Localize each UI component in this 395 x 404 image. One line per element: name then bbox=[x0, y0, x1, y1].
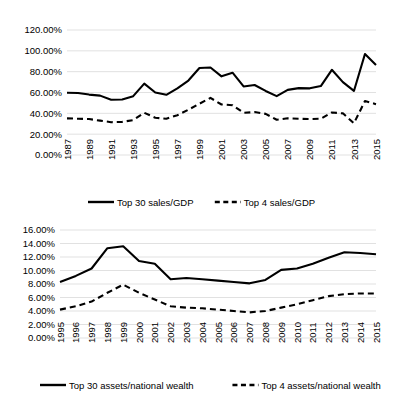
legend-label: Top 30 sales/GDP bbox=[117, 197, 194, 208]
x-axis-tick-label: 1995 bbox=[55, 322, 66, 343]
x-axis-tick-label: 2015 bbox=[371, 322, 382, 343]
x-axis-tick-label: 2005 bbox=[213, 322, 224, 343]
x-axis-tick-label: 2001 bbox=[149, 322, 160, 343]
y-axis-tick-label: 8.00% bbox=[28, 278, 55, 289]
x-axis-tick-label: 2004 bbox=[197, 322, 208, 343]
y-axis-tick-label: 0.00% bbox=[35, 149, 62, 160]
y-axis-tick-label: 16.00% bbox=[23, 224, 56, 235]
y-axis-tick-label: 40.00% bbox=[30, 108, 63, 119]
y-axis-tick-label: 120.00% bbox=[24, 24, 62, 35]
x-axis-tick-label: 1987 bbox=[62, 139, 73, 160]
plot-gridlines-bottom bbox=[60, 230, 376, 338]
x-axis-tick-label: 1997 bbox=[172, 139, 183, 160]
x-axis-tick-label: 2007 bbox=[244, 322, 255, 343]
series-line-dashed bbox=[60, 285, 376, 313]
x-axis-tick-label: 2015 bbox=[371, 139, 382, 160]
plot-series-top bbox=[67, 54, 376, 123]
x-axis-tick-label: 2012 bbox=[323, 322, 334, 343]
x-axis-tick-label: 2011 bbox=[307, 323, 318, 343]
x-axis-tick-label: 2014 bbox=[355, 322, 366, 343]
y-axis-tick-label: 4.00% bbox=[28, 305, 55, 316]
y-axis-tick-label: 20.00% bbox=[30, 129, 63, 140]
y-axis-tick-label: 14.00% bbox=[23, 238, 56, 249]
plot-gridlines-top bbox=[67, 30, 376, 155]
x-axis-tick-label: 1997 bbox=[86, 322, 97, 343]
plot-ylabels-bottom: 16.00%14.00%12.00%10.00%8.00%6.00%4.00%2… bbox=[23, 224, 56, 343]
series-line-solid bbox=[67, 54, 376, 100]
y-axis-tick-label: 0.00% bbox=[28, 332, 55, 343]
x-axis-tick-label: 2005 bbox=[260, 139, 271, 160]
x-axis-tick-label: 2001 bbox=[216, 139, 227, 160]
x-axis-tick-label: 2009 bbox=[276, 322, 287, 343]
plot-ylabels-top: 120.00%100.00%80.00%60.00%40.00%20.00%0.… bbox=[24, 24, 62, 160]
legend-label: Top 4 sales/GDP bbox=[244, 197, 315, 208]
series-line-dashed bbox=[67, 98, 376, 123]
legend-label: Top 4 assets/national wealth bbox=[261, 380, 380, 391]
x-axis-tick-label: 2003 bbox=[238, 139, 249, 160]
x-axis-tick-label: 2002 bbox=[165, 322, 176, 343]
y-axis-tick-label: 10.00% bbox=[23, 265, 56, 276]
x-axis-tick-label: 2006 bbox=[228, 322, 239, 343]
plot-xlabels-top: 1987198919911993199519971999200120032005… bbox=[62, 139, 382, 160]
plot-series-bottom bbox=[60, 246, 376, 312]
x-axis-tick-label: 2003 bbox=[181, 322, 192, 343]
x-axis-tick-label: 2013 bbox=[349, 139, 360, 160]
x-axis-tick-label: 1993 bbox=[128, 139, 139, 160]
y-axis-tick-label: 80.00% bbox=[30, 66, 63, 77]
chart-assets-national-wealth-svg: 16.00%14.00%12.00%10.00%8.00%6.00%4.00%2… bbox=[0, 212, 395, 404]
y-axis-tick-label: 6.00% bbox=[28, 292, 55, 303]
x-axis-tick-label: 1998 bbox=[102, 322, 113, 343]
x-axis-tick-label: 1999 bbox=[194, 139, 205, 160]
x-axis-tick-label: 2013 bbox=[339, 322, 350, 343]
x-axis-tick-label: 2009 bbox=[304, 139, 315, 160]
x-axis-tick-label: 2007 bbox=[282, 139, 293, 160]
y-axis-tick-label: 2.00% bbox=[28, 319, 55, 330]
plot-xlabels-bottom: 1995199619971998199920002001200220032004… bbox=[55, 322, 382, 343]
y-axis-tick-label: 100.00% bbox=[24, 45, 62, 56]
x-axis-tick-label: 2010 bbox=[292, 322, 303, 343]
plot-legend-top: Top 30 sales/GDPTop 4 sales/GDP bbox=[88, 197, 315, 208]
x-axis-tick-label: 2008 bbox=[260, 322, 271, 343]
x-axis-tick-label: 1995 bbox=[150, 139, 161, 160]
chart-assets-national-wealth: 16.00%14.00%12.00%10.00%8.00%6.00%4.00%2… bbox=[0, 212, 395, 404]
x-axis-tick-label: 1996 bbox=[70, 322, 81, 343]
chart-sales-gdp-svg: 120.00%100.00%80.00%60.00%40.00%20.00%0.… bbox=[0, 0, 395, 212]
x-axis-tick-label: 2011 bbox=[326, 140, 337, 160]
legend-label: Top 30 assets/national wealth bbox=[69, 380, 194, 391]
x-axis-tick-label: 1991 bbox=[106, 139, 117, 160]
series-line-solid bbox=[60, 246, 376, 283]
chart-sales-gdp: 120.00%100.00%80.00%60.00%40.00%20.00%0.… bbox=[0, 0, 395, 212]
y-axis-tick-label: 12.00% bbox=[23, 251, 56, 262]
x-axis-tick-label: 2000 bbox=[134, 322, 145, 343]
plot-legend-bottom: Top 30 assets/national wealthTop 4 asset… bbox=[40, 380, 381, 391]
y-axis-tick-label: 60.00% bbox=[30, 87, 63, 98]
x-axis-tick-label: 1989 bbox=[84, 139, 95, 160]
x-axis-tick-label: 1999 bbox=[118, 322, 129, 343]
